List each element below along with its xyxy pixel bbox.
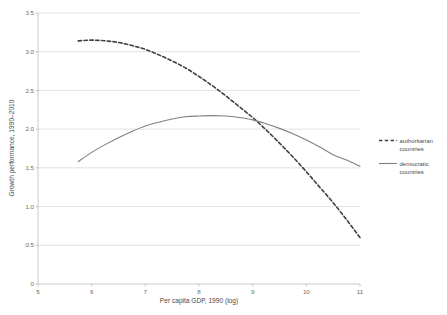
y-tick-label: 2.0 xyxy=(25,125,34,132)
legend-label-democratic-line1: democratic xyxy=(400,161,429,167)
legend-label-democratic-line2: countries xyxy=(400,169,424,175)
legend-label-authoritarian-line2: countries xyxy=(400,146,424,152)
chart-background xyxy=(0,0,447,315)
y-tick-label: 0.5 xyxy=(25,241,34,248)
x-axis-title: Per capita GDP, 1990 (log) xyxy=(160,297,238,305)
y-tick-label: 0 xyxy=(31,280,35,287)
chart-container: 00.51.01.52.02.53.03.5 567891011 Growth … xyxy=(0,0,447,315)
x-tick-label: 9 xyxy=(251,288,255,295)
x-tick-label: 11 xyxy=(357,288,364,295)
x-tick-label: 7 xyxy=(144,288,148,295)
y-axis-title: Growth performance, 1990–2010 xyxy=(8,99,16,196)
x-tick-label: 8 xyxy=(197,288,201,295)
y-tick-label: 3.5 xyxy=(25,9,34,16)
y-tick-label: 2.5 xyxy=(25,87,34,94)
x-tick-label: 6 xyxy=(90,288,94,295)
x-tick-label: 10 xyxy=(303,288,310,295)
x-tick-label: 5 xyxy=(36,288,40,295)
legend-label-authoritarian-line1: authoritarian xyxy=(400,138,433,144)
y-tick-label: 1.5 xyxy=(25,164,34,171)
y-tick-label: 3.0 xyxy=(25,48,34,55)
y-tick-label: 1.0 xyxy=(25,203,34,210)
growth-performance-chart: 00.51.01.52.02.53.03.5 567891011 Growth … xyxy=(0,0,447,315)
